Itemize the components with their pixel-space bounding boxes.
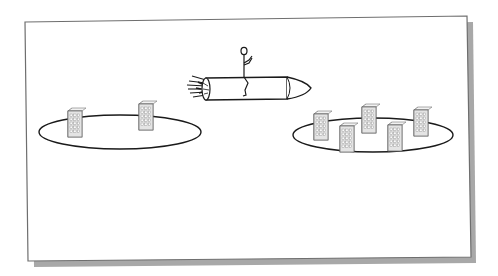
diagram-canvas <box>0 0 498 276</box>
diagram-frame <box>25 16 471 261</box>
rocket <box>187 76 311 100</box>
